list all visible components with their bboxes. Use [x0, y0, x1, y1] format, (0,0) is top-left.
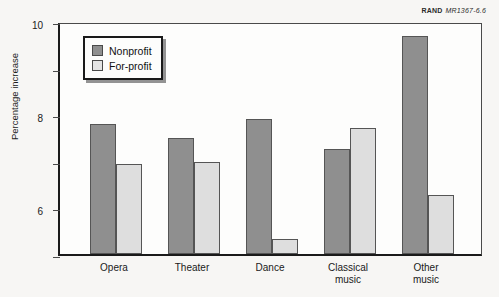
legend-swatch-icon [92, 60, 103, 71]
bar-nonprofit [402, 36, 428, 254]
y-axis-title: Percentage increase [9, 53, 20, 140]
y-axis-tick-label: 6 [37, 206, 43, 217]
chart-legend: NonprofitFor-profit [83, 36, 163, 80]
x-axis-label-line: Classical [303, 262, 393, 274]
bar-forprofit [350, 128, 376, 254]
bar-forprofit [194, 162, 220, 254]
x-axis-label-line: Theater [147, 262, 237, 274]
legend-item-nonprofit: Nonprofit [92, 43, 152, 58]
x-axis-label: Theater [147, 262, 237, 274]
y-axis-tick: 8 [53, 71, 60, 72]
bar-nonprofit [324, 149, 350, 254]
y-axis-tick: 10 [53, 24, 60, 25]
legend-item-forprofit: For-profit [92, 58, 152, 73]
bar-forprofit [272, 239, 298, 254]
x-axis-label-line: Opera [69, 262, 159, 274]
bar-nonprofit [90, 124, 116, 254]
bar-nonprofit [246, 119, 272, 254]
x-axis-label: Dance [225, 262, 315, 274]
x-axis-label-line: Other [381, 262, 471, 274]
x-axis-label: Opera [69, 262, 159, 274]
legend-item-label: For-profit [109, 60, 152, 72]
x-axis-label-line: Dance [225, 262, 315, 274]
x-axis-label: Othermusic [381, 262, 471, 286]
y-axis-tick: 0 [53, 257, 60, 258]
legend-item-label: Nonprofit [109, 45, 152, 57]
bar-group [246, 24, 298, 254]
bar-group [168, 24, 220, 254]
y-axis-tick: 2 [53, 210, 60, 211]
bar-forprofit [428, 195, 454, 254]
y-axis-tick-label: 8 [37, 113, 43, 124]
bar-nonprofit [168, 138, 194, 255]
bar-forprofit [116, 164, 142, 254]
chart-page: RANDMR1367-6.6 Percentage increase 02468… [0, 0, 499, 297]
x-axis-label-line: music [303, 274, 393, 286]
legend-swatch-icon [92, 45, 103, 56]
y-axis-tick-label: 10 [32, 20, 43, 31]
source-credit: RANDMR1367-6.6 [421, 7, 486, 14]
bar-group [402, 24, 454, 254]
bar-group [324, 24, 376, 254]
x-axis-label: Classicalmusic [303, 262, 393, 286]
x-axis-label-line: music [381, 274, 471, 286]
y-axis-tick: 6 [53, 117, 60, 118]
y-axis-tick: 4 [53, 164, 60, 165]
rand-logo-text: RAND [421, 7, 442, 14]
document-id: MR1367-6.6 [445, 7, 486, 14]
